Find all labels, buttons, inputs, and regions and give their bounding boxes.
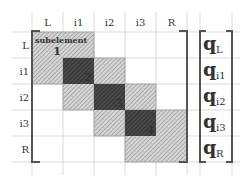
vector-entry: q bbox=[203, 32, 216, 54]
vector-subscript: i1 bbox=[216, 70, 226, 81]
column-label: i1 bbox=[74, 17, 84, 28]
submatrix-number: 3 bbox=[115, 97, 123, 110]
submatrix-layer: 1234subelement bbox=[32, 32, 187, 162]
vector-subscript: R bbox=[216, 148, 224, 159]
column-label: L bbox=[44, 17, 51, 28]
vector-entry: q bbox=[203, 110, 216, 132]
column-label: R bbox=[168, 17, 176, 28]
vector-entry: q bbox=[203, 58, 216, 80]
column-label: i2 bbox=[105, 17, 115, 28]
submatrix-number: 1 bbox=[53, 45, 61, 58]
row-label: i2 bbox=[19, 92, 29, 103]
vector-entry: q bbox=[203, 84, 216, 106]
vector-entry: q bbox=[203, 136, 216, 158]
vector-subscript: i3 bbox=[216, 122, 226, 133]
vector-subscript: L bbox=[216, 44, 223, 55]
submatrix-number: 4 bbox=[146, 123, 154, 136]
row-label: i3 bbox=[19, 118, 29, 129]
submatrix-number: 2 bbox=[84, 71, 92, 84]
row-label: L bbox=[22, 40, 29, 51]
vector-layer: qLqi1qi2qi3qR bbox=[203, 32, 226, 159]
submatrix-caption: subelement bbox=[35, 35, 88, 45]
vector-subscript: i2 bbox=[216, 96, 226, 107]
vector-right-bracket bbox=[226, 31, 232, 162]
row-label: i1 bbox=[19, 66, 29, 77]
stiffness-matrix-diagram: 1234subelement Li1i2i3RLi1i2i3R qLqi1qi2… bbox=[0, 0, 244, 187]
row-label: R bbox=[21, 144, 29, 155]
column-label: i3 bbox=[136, 17, 146, 28]
